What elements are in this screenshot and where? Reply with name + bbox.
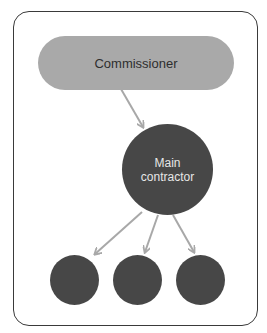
arrow-main-to-sub-3 — [173, 215, 194, 252]
commissioner-node: Commissioner — [38, 36, 234, 90]
subcontractor-node-3 — [176, 255, 225, 305]
arrow-main-to-sub-2 — [145, 215, 158, 252]
commissioner-label: Commissioner — [94, 56, 177, 71]
main-contractor-node: Main contractor — [122, 124, 213, 215]
main-contractor-label: Main contractor — [133, 156, 203, 184]
arrow-main-to-sub-1 — [95, 212, 142, 254]
subcontractor-node-2 — [113, 255, 162, 305]
arrow-commissioner-to-main — [121, 89, 143, 127]
subcontractor-node-1 — [50, 255, 99, 305]
